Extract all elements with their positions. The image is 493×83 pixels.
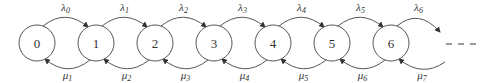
backward-rate-label: μ1	[62, 69, 73, 83]
state-label: 1	[93, 36, 100, 51]
birth-death-diagram: 0123456 λ0λ1λ2λ3λ4λ5λ6μ1μ2μ3μ4μ5μ6μ7	[0, 0, 493, 83]
forward-rate-label: λ2	[178, 1, 188, 15]
backward-rate-label: μ2	[121, 69, 132, 83]
forward-transition-arrow	[43, 17, 88, 27]
backward-transition-arrow	[281, 59, 326, 69]
forward-rate-label: λ1	[119, 1, 129, 15]
backward-transition-arrow	[104, 59, 149, 69]
state-label: 0	[34, 36, 41, 51]
backward-rate-label: μ5	[298, 69, 309, 83]
forward-transition-arrow	[161, 17, 206, 27]
state-node-1: 1	[78, 25, 114, 61]
backward-transition-arrow	[222, 59, 267, 69]
forward-rate-label: λ0	[60, 1, 70, 15]
forward-rate-label: λ5	[355, 1, 365, 15]
backward-transition-arrow	[45, 59, 90, 69]
forward-rate-label: λ4	[296, 1, 306, 15]
state-node-6: 6	[373, 25, 409, 61]
forward-transition-arrow	[220, 17, 265, 27]
backward-transition-arrow	[163, 59, 208, 69]
backward-rate-label: μ7	[416, 69, 428, 83]
state-node-2: 2	[137, 25, 173, 61]
forward-rate-label: λ6	[413, 1, 423, 15]
backward-transition-arrow	[399, 59, 445, 69]
backward-transition-arrow	[340, 59, 385, 69]
state-label: 2	[152, 36, 159, 51]
state-node-3: 3	[196, 25, 232, 61]
state-label: 3	[211, 36, 218, 51]
forward-transition-arrow	[279, 17, 324, 27]
state-node-4: 4	[255, 25, 291, 61]
state-label: 4	[270, 36, 277, 51]
state-label: 5	[329, 36, 336, 51]
forward-transition-arrow	[102, 17, 147, 27]
backward-rate-label: μ4	[239, 69, 250, 83]
forward-transition-arrow	[338, 17, 383, 27]
backward-rate-label: μ6	[357, 69, 368, 83]
state-node-0: 0	[19, 25, 55, 61]
state-label: 6	[388, 36, 395, 51]
forward-rate-label: λ3	[237, 1, 247, 15]
state-node-5: 5	[314, 25, 350, 61]
backward-rate-label: μ3	[180, 69, 191, 83]
